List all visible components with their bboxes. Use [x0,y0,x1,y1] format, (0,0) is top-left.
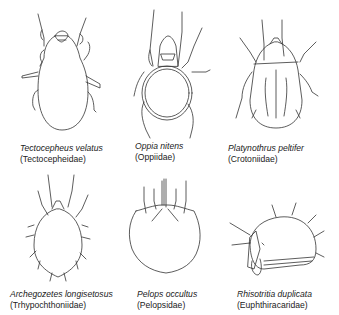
species-name: Oppia nitens [135,141,183,152]
specimen-label-2: Oppia nitens (Oppiidae) [135,141,183,163]
family-name: (Tectocepheidae) [20,154,103,165]
species-name: Archegozetes longisetosus [10,289,113,300]
drawing-platynothrus-peltifer [220,0,339,140]
specimen-label-6: Rhisotritia duplicata (Euphthiracaridae) [237,289,312,311]
specimen-label-4: Archegozetes longisetosus (Trhypochthoni… [10,289,113,311]
species-name: Pelops occultus [137,289,197,300]
family-name: (Pelopsidae) [137,300,197,311]
drawing-tectocepheus-velatus [0,0,115,140]
species-name: Tectocepheus velatus [20,143,103,154]
specimen-label-3: Platynothrus peltifer (Crotoniidae) [228,143,304,165]
family-name: (Trhypochthoniidae) [10,300,113,311]
species-name: Platynothrus peltifer [228,143,304,154]
species-name: Rhisotritia duplicata [237,289,312,300]
drawing-pelops-occultus [110,165,225,285]
drawing-oppia-nitens [110,0,225,140]
family-name: (Euphthiracaridae) [237,300,312,311]
family-name: (Oppiidae) [135,152,183,163]
specimen-label-1: Tectocepheus velatus (Tectocepheidae) [20,143,103,165]
family-name: (Crotoniidae) [228,154,304,165]
specimen-label-5: Pelops occultus (Pelopsidae) [137,289,197,311]
drawing-archegozetes-longisetosus [0,165,115,285]
drawing-rhisotritia-duplicata [220,165,339,285]
